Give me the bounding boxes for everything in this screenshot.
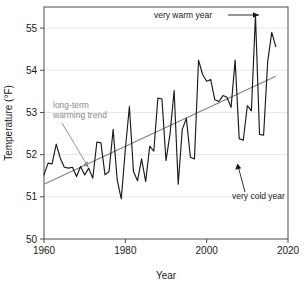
temperature-line-chart: 505152535455 1960198020002020 Year Tempe… — [0, 0, 306, 290]
y-tick-label-50: 50 — [26, 234, 38, 245]
y-tick-label-55: 55 — [26, 23, 38, 34]
x-axis-title: Year — [156, 270, 177, 281]
x-tick-label-1960: 1960 — [33, 245, 56, 256]
chart-svg: 505152535455 1960198020002020 Year Tempe… — [0, 0, 306, 290]
x-tick-label-1980: 1980 — [114, 245, 137, 256]
very-warm-year-label: very warm year — [154, 10, 212, 20]
long-term-warming-trend-label-line2: warming trend — [52, 110, 107, 120]
y-tick-label-54: 54 — [26, 65, 38, 76]
x-tick-label-2020: 2020 — [277, 245, 300, 256]
y-tick-label-52: 52 — [26, 149, 38, 160]
long-term-warming-trend-label-line1: long-term — [53, 100, 89, 110]
very-cold-year-label: very cold year — [232, 191, 285, 201]
y-tick-label-53: 53 — [26, 107, 38, 118]
x-tick-label-2000: 2000 — [196, 245, 219, 256]
y-axis-title: Temperature (°F) — [3, 85, 14, 161]
y-tick-label-51: 51 — [26, 191, 38, 202]
